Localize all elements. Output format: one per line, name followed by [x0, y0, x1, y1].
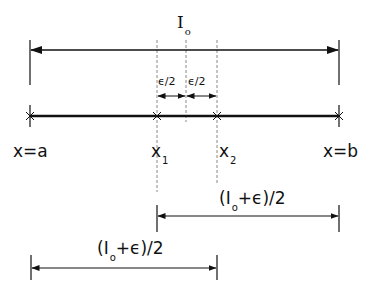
number-line: [26, 105, 343, 127]
diagram-graphics: [0, 0, 366, 294]
label-rest: +ϵ)/2: [238, 188, 286, 208]
point-b-label: x=b: [323, 141, 358, 161]
label-rest: +ϵ)/2: [116, 238, 164, 258]
point-a-label: x=a: [13, 141, 48, 161]
total-interval-label: Io: [177, 12, 191, 32]
label-main: I: [177, 12, 184, 32]
label-main: x: [151, 141, 161, 161]
epsilon-half-right-label: ϵ/2: [188, 75, 205, 88]
point-x1-label: x1: [151, 141, 168, 161]
point-x2-label: x2: [219, 141, 236, 161]
label-sub: o: [110, 252, 116, 263]
label-main: x: [219, 141, 229, 161]
left-half-arrow: [31, 255, 217, 280]
left-half-label: (Io+ϵ)/2: [97, 238, 164, 258]
label-sub: 1: [162, 155, 168, 166]
label-sub: o: [185, 26, 191, 37]
label-open: (I: [219, 188, 231, 208]
right-half-label: (Io+ϵ)/2: [219, 188, 286, 208]
label-sub: o: [232, 202, 238, 213]
label-open: (I: [97, 238, 109, 258]
right-half-arrow: [157, 205, 339, 232]
total-interval-arrow: [30, 40, 339, 85]
interval-diagram: Io ϵ/2 ϵ/2 x=a x1 x2 x=b (Io+ϵ)/2 (Io+ϵ)…: [0, 0, 366, 294]
label-sub: 2: [230, 155, 236, 166]
epsilon-half-left-label: ϵ/2: [158, 75, 175, 88]
